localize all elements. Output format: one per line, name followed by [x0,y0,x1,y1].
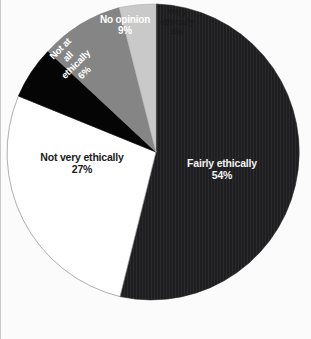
pie-chart: Fairly ethically 54% Not very ethically … [1,0,311,339]
pie-svg [1,0,311,339]
chart-page: Fairly ethically 54% Not very ethically … [0,0,311,339]
